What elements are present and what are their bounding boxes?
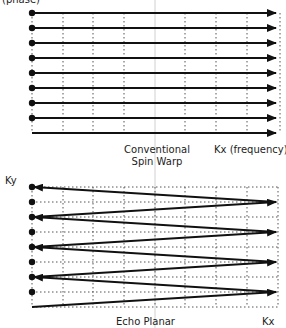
top-trajectory [29,10,276,133]
phase-step-dot [29,115,35,121]
top-title: Conventional Spin Warp [117,144,197,168]
phase-step-dot [29,40,35,46]
top-x-axis-label: Kx (frequency) [214,144,286,156]
phase-step-dot [29,214,35,220]
phase-step-dot [29,289,35,295]
phase-step-dot [29,259,35,265]
bottom-x-axis-label: Kx [262,316,274,328]
bottom-y-axis-label: Ky [5,175,17,187]
phase-step-dot [29,199,35,205]
phase-step-dot [29,274,35,280]
phase-step-dot [29,244,35,250]
phase-step-dot [29,55,35,61]
phase-step-dot [29,229,35,235]
top-title-line2: Spin Warp [117,156,197,168]
phase-step-dot [29,25,35,31]
phase-step-dot [29,100,35,106]
top-y-axis-label: (phase) [2,0,40,6]
phase-step-dot [29,184,35,190]
phase-step-dot [29,70,35,76]
top-title-line1: Conventional [117,144,197,156]
phase-step-dot [29,85,35,91]
bottom-title: Echo Planar [116,316,175,328]
epi-trajectory-segment [32,292,276,307]
phase-step-dot [29,10,35,16]
